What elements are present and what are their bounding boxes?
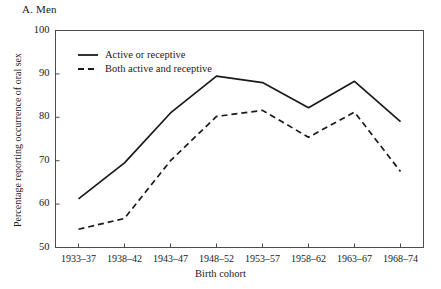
y-tick-label: 90: [24, 67, 50, 78]
plot-area: [0, 0, 441, 289]
y-tick-label: 100: [24, 24, 50, 35]
y-tick-label: 60: [24, 197, 50, 208]
chart-legend: Active or receptive Both active and rece…: [78, 48, 212, 76]
chart-figure: A. Men Percentage reporting occurrence o…: [0, 0, 441, 289]
y-tick-label: 70: [24, 154, 50, 165]
series-line-both-active-and-receptive: [79, 110, 401, 229]
solid-line-icon: [78, 50, 98, 60]
x-tick-label: 1948–52: [199, 253, 234, 264]
x-tick-label: 1943–47: [153, 253, 188, 264]
y-tick-marks: [56, 31, 60, 248]
x-tick-marks: [79, 244, 401, 248]
legend-label: Active or receptive: [105, 48, 185, 62]
x-tick-label: 1938–42: [107, 253, 142, 264]
x-tick-label: 1958–62: [291, 253, 326, 264]
x-tick-label: 1933–37: [61, 253, 96, 264]
x-tick-label: 1968–74: [383, 253, 418, 264]
x-tick-label: 1963–67: [337, 253, 372, 264]
series-line-active-or-receptive: [79, 76, 401, 199]
y-tick-label: 80: [24, 110, 50, 121]
legend-item-both-active-and-receptive: Both active and receptive: [78, 62, 212, 76]
x-tick-label: 1953–57: [245, 253, 280, 264]
legend-label: Both active and receptive: [105, 62, 212, 76]
dashed-line-icon: [78, 64, 98, 74]
legend-item-active-or-receptive: Active or receptive: [78, 48, 212, 62]
y-tick-label: 50: [24, 241, 50, 252]
